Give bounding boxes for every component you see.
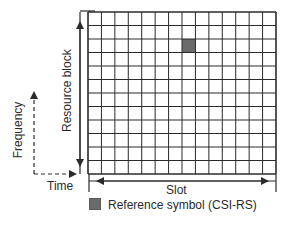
frequency-label: Frequency: [12, 100, 24, 160]
reference-symbol-cell: [182, 39, 195, 53]
legend-swatch-reference-symbol: [89, 198, 101, 210]
legend-label-reference-symbol: Reference symbol (CSI-RS): [108, 199, 257, 211]
resource-grid-diagram: [0, 0, 294, 227]
resource-block-label: Resource block: [61, 52, 73, 132]
slot-label: Slot: [166, 184, 187, 196]
time-label: Time: [47, 180, 73, 192]
resource-grid: [88, 12, 276, 174]
